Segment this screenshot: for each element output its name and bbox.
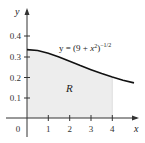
chart-canvas: 0 1 2 3 4 0.4 0.3 0.2 0.1 y x y = (9 + x… [0,0,145,143]
x-tick-label-3: 3 [89,124,94,134]
y-tick-label-0.4: 0.4 [10,31,22,41]
equation-exponent: −1/2 [100,42,111,48]
y-axis-arrow-icon [25,8,30,15]
x-tick-label-2: 2 [67,124,72,134]
region-label: R [65,82,73,94]
y-tick-label-0.3: 0.3 [10,52,22,62]
x-axis-label: x [133,123,139,134]
x-tick-label-0: 0 [16,124,21,134]
x-tick-label-4: 4 [110,124,115,134]
y-axis-label: y [14,6,20,17]
y-tick-label-0.1: 0.1 [10,93,21,103]
equation-label: y = (9 + x2)−1/2 [59,42,111,53]
y-tick-label-0.2: 0.2 [10,73,21,83]
x-axis-arrow-icon [132,116,139,121]
x-tick-label-1: 1 [46,124,51,134]
equation-prefix: y = (9 + [59,43,90,53]
